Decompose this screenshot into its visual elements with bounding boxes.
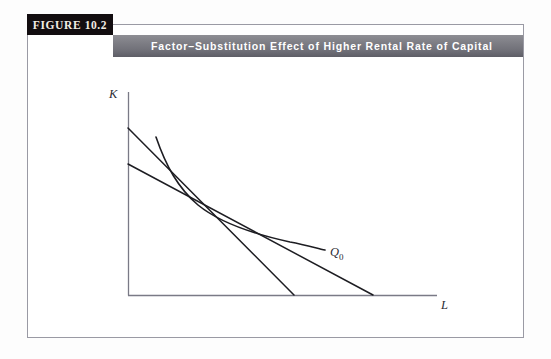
- y-axis-label: K: [109, 87, 117, 102]
- figure-frame: [27, 24, 524, 338]
- isoquant-label-base: Q: [330, 245, 339, 259]
- figure-title-bar: Factor–Substitution Effect of Higher Ren…: [113, 35, 523, 57]
- isoquant-label-q0: Q0: [330, 245, 344, 262]
- figure-number-label: FIGURE 10.2: [33, 19, 107, 31]
- figure-title: Factor–Substitution Effect of Higher Ren…: [151, 40, 493, 52]
- figure-number-tab: FIGURE 10.2: [27, 14, 113, 35]
- isoquant-label-subscript: 0: [339, 252, 344, 262]
- x-axis-label: L: [441, 298, 448, 313]
